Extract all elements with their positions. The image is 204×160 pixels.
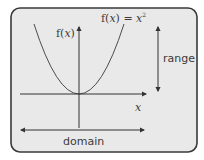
function-domain-range-diagram: f(x) f(x) = x2 x range domain [0, 0, 204, 160]
y-axis-label: f(x) [56, 27, 75, 40]
function-label: f(x) = x2 [101, 11, 146, 25]
range-label: range [163, 52, 195, 65]
x-axis-label: x [135, 101, 142, 114]
domain-label: domain [63, 135, 104, 148]
